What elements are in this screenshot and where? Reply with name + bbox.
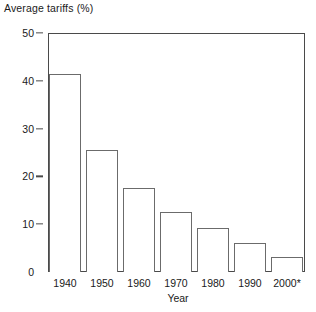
x-tick-label-1980: 1980 (201, 277, 224, 289)
x-tick-label-1950: 1950 (90, 277, 113, 289)
x-tick-label-1960: 1960 (127, 277, 150, 289)
x-axis-title: Year (167, 292, 188, 304)
x-tick-label-1990: 1990 (238, 277, 261, 289)
x-axis: 1940 1950 1960 1970 1980 1990 2000* (0, 0, 316, 312)
bar-chart-figure: Average tariffs (%) 50 40 30 20 10 0 194… (0, 0, 316, 312)
x-tick-label-2000: 2000* (273, 277, 300, 289)
x-tick-label-1940: 1940 (53, 277, 76, 289)
x-tick-label-1970: 1970 (164, 277, 187, 289)
